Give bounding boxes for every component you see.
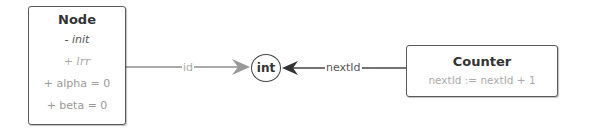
counter-class-box[interactable]: Counter nextId := nextId + 1 [406,45,558,97]
counter-statement: nextId := nextId + 1 [407,71,557,89]
node-title: Node [29,11,125,29]
node-class-box[interactable]: Node - init + lrr + alpha = 0 + beta = 0 [28,6,126,125]
node-member-alpha: + alpha = 0 [29,73,125,95]
diagram-canvas: Node - init + lrr + alpha = 0 + beta = 0… [0,0,590,134]
node-member-lrr: + lrr [29,51,125,73]
int-label: int [257,61,275,75]
counter-title: Counter [407,53,557,71]
int-type-node[interactable]: int [251,54,281,82]
edge-label-id: id [182,61,194,75]
edge-label-nextid: nextId [325,61,362,75]
node-member-init: - init [29,29,125,51]
node-member-beta: + beta = 0 [29,95,125,117]
